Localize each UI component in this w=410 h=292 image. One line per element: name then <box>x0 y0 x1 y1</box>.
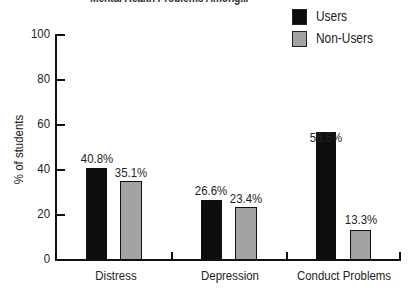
bar-conduct-problems-users <box>316 132 336 260</box>
y-tick <box>57 79 65 81</box>
y-tick <box>57 124 65 126</box>
value-label: 56.5% <box>304 130 348 145</box>
value-label: 13.3% <box>339 212 383 227</box>
value-label: 23.4% <box>224 191 268 206</box>
y-tick <box>57 214 65 216</box>
bar-conduct-problems-non-users <box>350 230 371 260</box>
y-tick-label: 20 <box>24 206 50 221</box>
legend-swatch-non-users <box>292 31 307 47</box>
bar-depression-non-users <box>235 207 257 260</box>
y-tick-label: 100 <box>24 26 50 41</box>
category-label-distress: Distress <box>63 268 169 283</box>
y-tick-label: 40 <box>24 161 50 176</box>
y-tick-label: 60 <box>24 116 50 131</box>
x-tick <box>171 252 173 260</box>
y-axis-line <box>55 34 57 261</box>
chart-title: Mental Health Problems Among... <box>90 0 248 5</box>
category-label-conduct-problems: Conduct Problems <box>291 268 397 283</box>
y-tick-label: 80 <box>24 71 50 86</box>
legend-label-non-users: Non-Users <box>316 30 373 46</box>
bar-distress-non-users <box>120 181 142 260</box>
value-label: 40.8% <box>75 151 119 166</box>
bar-depression-users <box>201 200 222 260</box>
value-label: 35.1% <box>109 165 153 180</box>
y-tick <box>57 34 65 36</box>
category-label-depression: Depression <box>177 268 283 283</box>
y-tick <box>57 169 65 171</box>
x-tick <box>399 252 401 260</box>
y-tick-label: 0 <box>24 251 50 266</box>
legend-swatch-users <box>292 9 307 25</box>
x-tick <box>286 252 288 260</box>
bar-distress-users <box>86 168 107 260</box>
legend-label-users: Users <box>316 8 347 24</box>
